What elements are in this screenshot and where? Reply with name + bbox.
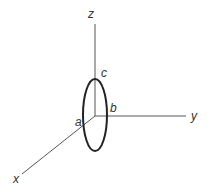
axes-diagram (0, 0, 209, 191)
diagram-canvas: z c b a y x (0, 0, 209, 191)
point-a-label: a (75, 116, 82, 128)
y-axis-label: y (191, 110, 197, 122)
point-c-label: c (101, 67, 107, 79)
z-axis-label: z (88, 8, 94, 20)
point-b-label: b (110, 102, 117, 114)
x-axis-label: x (13, 173, 19, 185)
